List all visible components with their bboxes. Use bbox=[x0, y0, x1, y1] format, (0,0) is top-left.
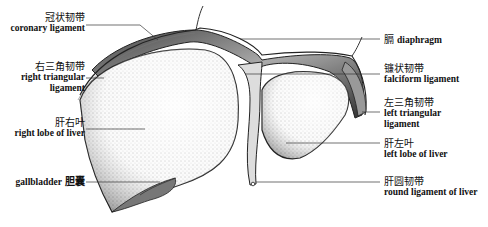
label-zh: 肝右叶 bbox=[15, 117, 85, 128]
label-zh: 膈 bbox=[384, 34, 394, 45]
label-diaphragm: 膈 diaphragm bbox=[384, 34, 442, 46]
label-zh: 左三角韧带 bbox=[384, 97, 441, 108]
label-en: round ligament of liver bbox=[384, 187, 478, 198]
label-en: falciform ligament bbox=[384, 74, 459, 85]
label-zh: 右三角韧带 bbox=[21, 61, 85, 72]
label-left-triangular-ligament: 左三角韧带 left triangular ligament bbox=[384, 97, 441, 130]
label-en: right triangular bbox=[21, 72, 85, 83]
label-en: left triangular bbox=[384, 108, 441, 119]
label-zh: 胆囊 bbox=[65, 176, 85, 187]
label-en: left lobe of liver bbox=[384, 149, 448, 160]
label-en: gallbladder bbox=[16, 177, 62, 187]
label-right-lobe: 肝右叶 right lobe of liver bbox=[15, 117, 85, 139]
label-zh: 肝圆韧带 bbox=[384, 176, 478, 187]
label-en: coronary ligament bbox=[11, 23, 86, 34]
label-falciform-ligament: 镰状韧带 falciform ligament bbox=[384, 63, 459, 85]
label-zh: 肝左叶 bbox=[384, 138, 448, 149]
label-en-line2: ligament bbox=[384, 119, 441, 130]
label-coronary-ligament: 冠状韧带 coronary ligament bbox=[11, 12, 86, 34]
label-zh: 冠状韧带 bbox=[11, 12, 86, 23]
label-left-lobe: 肝左叶 left lobe of liver bbox=[384, 138, 448, 160]
label-en: right lobe of liver bbox=[15, 128, 85, 139]
label-en-line2: ligament bbox=[21, 83, 85, 94]
liver-anatomy-diagram: 冠状韧带 coronary ligament 右三角韧带 right trian… bbox=[0, 0, 488, 227]
label-round-ligament: 肝圆韧带 round ligament of liver bbox=[384, 176, 478, 198]
label-en: diaphragm bbox=[397, 35, 442, 45]
label-gallbladder: gallbladder 胆囊 bbox=[16, 176, 85, 188]
label-zh: 镰状韧带 bbox=[384, 63, 459, 74]
label-right-triangular-ligament: 右三角韧带 right triangular ligament bbox=[21, 61, 85, 94]
